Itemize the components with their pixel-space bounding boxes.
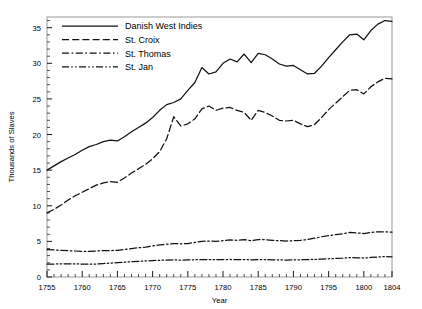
y-tick-label: 30 [33,59,41,68]
series-line-st-croix [47,78,392,213]
series-group [47,21,392,265]
chart-container: 0510152025303517551760176517701775178017… [0,0,422,309]
y-axis: 05101520253035 [33,21,52,282]
y-tick-label: 10 [33,202,41,211]
line-chart: 0510152025303517551760176517701775178017… [0,0,422,309]
legend-label-st-croix: St. Croix [125,35,160,45]
legend-label-st-thomas: St. Thomas [125,49,171,59]
x-tick-label: 1765 [109,283,126,292]
plot-frame [47,17,392,277]
x-axis-title: Year [212,296,228,305]
x-tick-label: 1755 [39,283,56,292]
series-line-danish-west-indies [47,21,392,171]
x-tick-label: 1775 [179,283,196,292]
y-axis-title: Thousands of Slaves [7,111,16,182]
series-line-st-jan [47,257,392,265]
x-tick-label: 1760 [74,283,91,292]
y-tick-label: 25 [33,95,41,104]
y-tick-label: 0 [37,273,41,282]
x-tick-label: 1804 [384,283,401,292]
y-tick-label: 15 [33,166,41,175]
x-tick-label: 1790 [285,283,302,292]
chart-legend: Danish West IndiesSt. CroixSt. ThomasSt.… [62,21,203,72]
x-axis: 1755176017651770177517801785179017951800… [39,271,401,292]
y-tick-label: 5 [37,237,41,246]
x-tick-label: 1800 [355,283,372,292]
x-tick-label: 1785 [250,283,267,292]
x-tick-label: 1780 [215,283,232,292]
x-tick-label: 1770 [144,283,161,292]
series-line-st-thomas [47,232,392,252]
x-tick-label: 1795 [320,283,337,292]
legend-label-st-jan: St. Jan [125,62,153,72]
legend-label-danish-west-indies: Danish West Indies [125,21,203,31]
plot-border [47,17,392,277]
y-tick-label: 35 [33,24,41,33]
y-tick-label: 20 [33,131,41,140]
